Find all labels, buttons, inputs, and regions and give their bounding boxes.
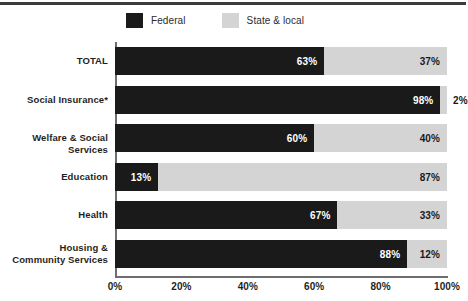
category-label-line: Education: [0, 171, 108, 183]
category-label-line: Community Services: [0, 254, 108, 266]
stacked-bar: 63%37%: [115, 47, 447, 75]
category-label-line: TOTAL: [0, 55, 108, 67]
bar-segment-federal: 60%: [115, 124, 314, 152]
legend-swatch-state: [222, 13, 239, 28]
bar-row: 88%12%: [115, 240, 447, 268]
legend-item-state: State & local: [222, 13, 304, 28]
bar-value-federal: 60%: [287, 133, 307, 144]
plot-area: 63%37%98%2%60%40%13%87%67%33%88%12%: [115, 42, 447, 275]
bar-segment-federal: 13%: [115, 163, 158, 191]
chart-legend: FederalState & local: [126, 11, 340, 29]
top-divider-rule: [0, 2, 466, 5]
x-axis-tick-labels: 0%20%40%60%80%100%: [115, 281, 447, 297]
bar-segment-state-local: 2%: [440, 86, 447, 114]
bar-segment-federal: 98%: [115, 86, 440, 114]
category-label: Social Insurance*: [0, 94, 108, 106]
x-tick-label: 60%: [304, 281, 324, 292]
legend-swatch-federal: [126, 13, 143, 28]
x-tick-label: 40%: [238, 281, 258, 292]
bar-segment-state-local: 40%: [314, 124, 447, 152]
x-tick-label: 0%: [108, 281, 123, 292]
bar-segment-state-local: 12%: [407, 240, 447, 268]
bar-segment-federal: 67%: [115, 201, 337, 229]
bar-row: 60%40%: [115, 124, 447, 152]
bar-value-federal: 13%: [131, 171, 151, 182]
category-label: Housing &Community Services: [0, 242, 108, 266]
category-label: Welfare & Social Services: [0, 132, 108, 156]
bar-segment-state-local: 37%: [324, 47, 447, 75]
bar-segment-federal: 63%: [115, 47, 324, 75]
legend-label-federal: Federal: [151, 15, 186, 26]
bar-row: 63%37%: [115, 47, 447, 75]
category-label: TOTAL: [0, 55, 108, 67]
bar-value-state-local: 40%: [420, 133, 440, 144]
stacked-bar: 98%2%: [115, 86, 447, 114]
category-label: Health: [0, 209, 108, 221]
bar-value-state-local: 33%: [420, 210, 440, 221]
stacked-bar: 88%12%: [115, 240, 447, 268]
bar-value-federal: 98%: [413, 94, 433, 105]
category-label-line: Social Insurance*: [0, 94, 108, 106]
category-label-line: Health: [0, 209, 108, 221]
bar-value-state-local: 37%: [420, 56, 440, 67]
bar-segment-state-local: 87%: [158, 163, 447, 191]
bar-value-federal: 88%: [380, 248, 400, 259]
x-tick-label: 20%: [171, 281, 191, 292]
stacked-bar: 67%33%: [115, 201, 447, 229]
bar-value-federal: 63%: [297, 56, 317, 67]
category-label-line: Housing &: [0, 242, 108, 254]
bar-row: 13%87%: [115, 163, 447, 191]
bar-segment-state-local: 33%: [337, 201, 447, 229]
bar-segment-federal: 88%: [115, 240, 407, 268]
bar-row: 67%33%: [115, 201, 447, 229]
legend-label-state: State & local: [247, 15, 304, 26]
category-label-line: Welfare & Social Services: [0, 132, 108, 156]
x-tick-label: 80%: [370, 281, 390, 292]
x-tick-label: 100%: [434, 281, 460, 292]
bar-value-state-local: 2%: [453, 94, 468, 105]
category-label-column: TOTALSocial Insurance*Welfare & Social S…: [0, 42, 108, 277]
legend-item-federal: Federal: [126, 13, 186, 28]
x-axis-line: [115, 276, 448, 278]
bar-value-state-local: 12%: [420, 248, 440, 259]
bar-value-state-local: 87%: [420, 171, 440, 182]
stacked-bar: 13%87%: [115, 163, 447, 191]
category-label: Education: [0, 171, 108, 183]
bar-value-federal: 67%: [310, 210, 330, 221]
bar-row: 98%2%: [115, 86, 447, 114]
stacked-bar: 60%40%: [115, 124, 447, 152]
